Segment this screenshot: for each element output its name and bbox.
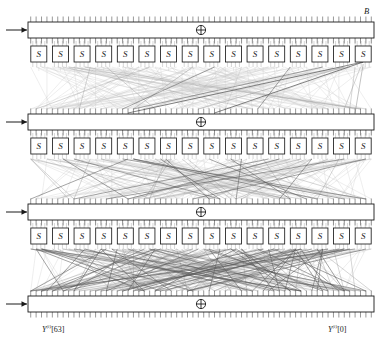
- svg-text:S: S: [296, 49, 301, 59]
- svg-text:S: S: [318, 231, 323, 241]
- cipher-network-diagram: SSSSSSSSSSSSSSSSSSSSSSSSSSSSSSSSSSSSSSSS…: [0, 0, 383, 352]
- svg-text:S: S: [361, 49, 366, 59]
- svg-text:S: S: [274, 231, 279, 241]
- svg-text:S: S: [145, 231, 150, 241]
- svg-text:S: S: [296, 141, 301, 151]
- svg-text:S: S: [210, 231, 215, 241]
- svg-text:S: S: [58, 49, 63, 59]
- svg-text:S: S: [361, 231, 366, 241]
- svg-text:S: S: [210, 141, 215, 151]
- svg-text:S: S: [123, 231, 128, 241]
- output-label-y-63: Y(i)[63]: [42, 324, 64, 334]
- svg-text:S: S: [253, 49, 258, 59]
- svg-text:S: S: [80, 141, 85, 151]
- svg-text:S: S: [145, 49, 150, 59]
- svg-text:S: S: [80, 49, 85, 59]
- svg-text:S: S: [166, 231, 171, 241]
- svg-text:S: S: [231, 231, 236, 241]
- svg-text:S: S: [274, 49, 279, 59]
- svg-text:S: S: [253, 231, 258, 241]
- svg-text:S: S: [188, 141, 193, 151]
- key-input-arrows: [6, 27, 27, 307]
- svg-text:S: S: [188, 231, 193, 241]
- svg-text:S: S: [101, 231, 106, 241]
- svg-text:S: S: [296, 231, 301, 241]
- svg-text:S: S: [339, 49, 344, 59]
- svg-text:S: S: [188, 49, 193, 59]
- svg-text:S: S: [166, 141, 171, 151]
- output-label-y-0: Y(i)[0]: [328, 324, 346, 334]
- svg-text:S: S: [37, 49, 42, 59]
- svg-text:S: S: [37, 231, 42, 241]
- svg-text:S: S: [361, 141, 366, 151]
- svg-text:S: S: [37, 141, 42, 151]
- svg-text:S: S: [253, 141, 258, 151]
- svg-text:S: S: [210, 49, 215, 59]
- svg-text:S: S: [80, 231, 85, 241]
- svg-text:S: S: [145, 141, 150, 151]
- svg-text:S: S: [274, 141, 279, 151]
- svg-text:S: S: [231, 141, 236, 151]
- svg-text:S: S: [101, 49, 106, 59]
- svg-text:S: S: [339, 231, 344, 241]
- block-input-label-b: B: [364, 6, 369, 16]
- svg-text:S: S: [166, 49, 171, 59]
- svg-text:S: S: [58, 231, 63, 241]
- svg-text:S: S: [339, 141, 344, 151]
- svg-text:S: S: [58, 141, 63, 151]
- svg-text:S: S: [123, 49, 128, 59]
- svg-text:S: S: [318, 141, 323, 151]
- svg-text:S: S: [101, 141, 106, 151]
- svg-text:S: S: [318, 49, 323, 59]
- svg-text:S: S: [123, 141, 128, 151]
- svg-text:S: S: [231, 49, 236, 59]
